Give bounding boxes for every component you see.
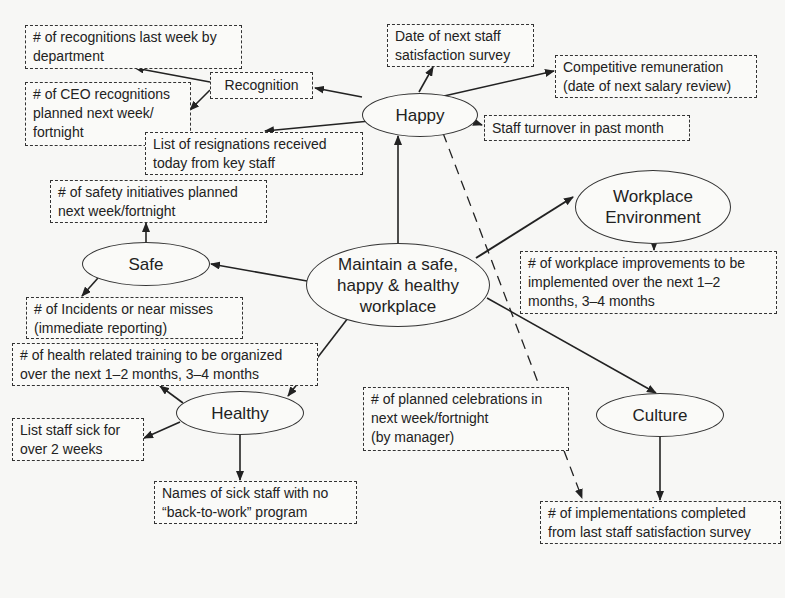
workplace-environment-node[interactable]: Workplace Environment <box>575 170 731 244</box>
edge-healthy-training <box>160 386 183 403</box>
central-goal-node[interactable]: Maintain a safe, happy & healthy workpla… <box>306 243 490 327</box>
edge-happy-resignations <box>265 121 370 131</box>
recognitions-last-week-box[interactable]: # of recognitions last week by departmen… <box>25 25 242 69</box>
edge-recognition-lastweek <box>135 68 210 82</box>
edge-happy-survey <box>419 67 433 92</box>
implementations-box[interactable]: # of implementations completed from last… <box>540 501 781 544</box>
healthy-node[interactable]: Healthy <box>176 391 304 435</box>
edge-central-safe <box>211 264 307 281</box>
celebrations-box[interactable]: # of planned celebrations in next week/f… <box>363 387 569 451</box>
culture-node[interactable]: Culture <box>596 393 724 437</box>
next-survey-date-box[interactable]: Date of next staff satisfaction survey <box>387 24 534 67</box>
safety-initiatives-box[interactable]: # of safety initiatives planned next wee… <box>50 180 267 223</box>
edge-central-workplace <box>476 197 573 258</box>
workplace-improvements-box[interactable]: # of workplace improvements to be implem… <box>520 251 777 314</box>
edge-happy-recognition <box>315 88 362 97</box>
staff-turnover-box[interactable]: Staff turnover in past month <box>484 115 690 141</box>
edge-recognition-ceo <box>190 90 210 110</box>
happy-node[interactable]: Happy <box>362 93 478 137</box>
recognition-box[interactable]: Recognition <box>210 72 313 99</box>
remuneration-box[interactable]: Competitive remuneration (date of next s… <box>555 55 757 98</box>
resignations-box[interactable]: List of resignations received today from… <box>145 132 363 175</box>
health-training-box[interactable]: # of health related training to be organ… <box>12 343 318 386</box>
safe-node[interactable]: Safe <box>82 242 210 286</box>
sick-staff-box[interactable]: List staff sick for over 2 weeks <box>12 418 144 461</box>
edge-safe-incidents <box>82 278 98 296</box>
edge-happy-remuneration <box>444 71 554 96</box>
back-to-work-box[interactable]: Names of sick staff with no “back-to-wor… <box>154 481 357 524</box>
edge-healthy-sick <box>144 422 180 438</box>
incidents-box[interactable]: # of Incidents or near misses (immediate… <box>26 297 243 339</box>
